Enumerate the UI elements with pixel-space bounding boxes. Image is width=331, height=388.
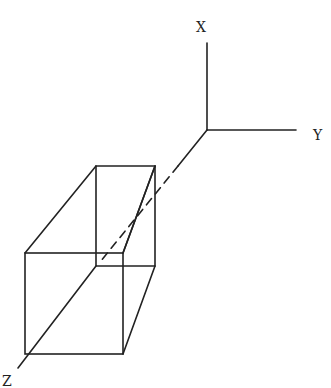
z-axis-label: Z [2, 373, 12, 388]
box-edge-diagonal-inner [123, 166, 155, 253]
z-axis-solid-upper [178, 130, 207, 166]
z-axis-solid-lower [18, 266, 96, 368]
box-edge-bottom-right [123, 266, 155, 354]
box-back-face [96, 166, 155, 266]
box-edge-top-left [25, 166, 96, 253]
z-axis-hidden-dashed [100, 166, 178, 262]
x-axis-label: X [196, 19, 206, 35]
axes-diagram: X Y Z [0, 0, 331, 388]
y-axis-label: Y [312, 127, 323, 143]
